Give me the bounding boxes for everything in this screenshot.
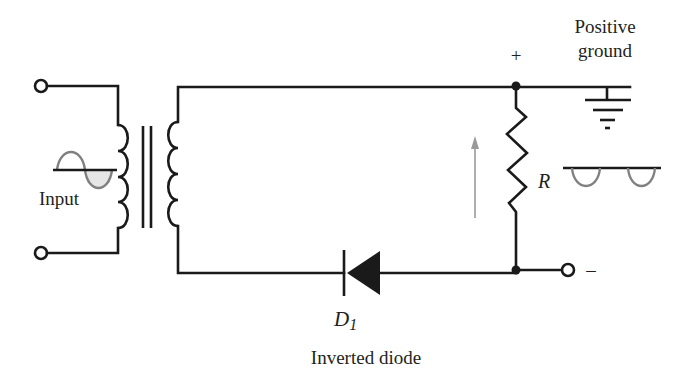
input-waveform [53, 152, 117, 188]
top-rail-wire [178, 87, 630, 122]
current-arrow [471, 136, 479, 218]
input-label: Input [39, 188, 80, 209]
secondary-coil [168, 122, 178, 226]
resistor-label: R [537, 170, 550, 192]
diode-label: D1 [333, 307, 357, 333]
plus-label: + [511, 45, 522, 66]
diode-to-node-wire [380, 270, 562, 273]
input-terminal-bottom [35, 247, 47, 259]
bottom-rail-wire [178, 226, 344, 273]
primary-bottom-wire [47, 228, 118, 253]
output-waveform [563, 168, 661, 186]
primary-top-wire [47, 86, 118, 125]
primary-coil [118, 125, 128, 228]
positive-ground-label-line2: ground [578, 40, 632, 61]
ground-symbol [585, 87, 631, 128]
positive-ground-label-line1: Positive [574, 16, 635, 37]
diode-caption: Inverted diode [311, 347, 421, 368]
input-terminal-top [35, 80, 47, 92]
resistor-r [507, 86, 527, 270]
output-terminal-negative [562, 264, 574, 276]
rectifier-circuit-diagram: Input D1 Inverted diode R + – Positive g… [0, 0, 690, 383]
diode-d1 [344, 250, 380, 296]
minus-label: – [585, 259, 596, 280]
diode-anode-triangle [347, 251, 380, 295]
